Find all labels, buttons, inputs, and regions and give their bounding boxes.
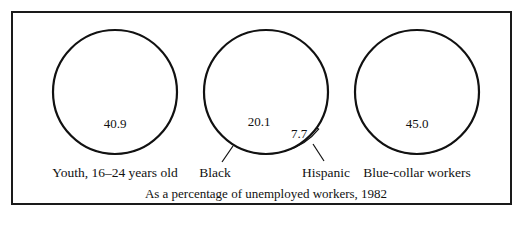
pie-youth-value-label: 40.9 [104, 116, 127, 131]
pie-black-leader-line [222, 146, 233, 162]
pie-black-hispanic[interactable]: 20.1 7.7 Black Hispanic [199, 30, 350, 180]
pie-hispanic-category-label: Hispanic [302, 165, 350, 180]
pie-chart-group: 40.9 Youth, 16–24 years old 20.1 7.7 Bla… [0, 0, 531, 227]
pie-youth-category-label: Youth, 16–24 years old [52, 165, 178, 180]
pie-blue-collar[interactable]: 45.0 Blue-collar workers [355, 30, 479, 180]
pie-hispanic-value-label: 7.7 [291, 126, 308, 141]
figure-root: 40.9 Youth, 16–24 years old 20.1 7.7 Bla… [0, 0, 531, 227]
pie-blue-collar-category-label: Blue-collar workers [363, 165, 471, 180]
pie-black-category-label: Black [199, 165, 231, 180]
pie-youth[interactable]: 40.9 Youth, 16–24 years old [52, 30, 178, 180]
pie-black-hispanic-outline [204, 30, 328, 154]
pie-black-value-label: 20.1 [248, 114, 271, 129]
pie-hispanic-leader-line [313, 144, 324, 161]
pie-blue-collar-outline [355, 30, 479, 154]
figure-caption: As a percentage of unemployed workers, 1… [145, 186, 387, 201]
pie-youth-outline [53, 30, 177, 154]
pie-blue-collar-value-label: 45.0 [406, 116, 429, 131]
